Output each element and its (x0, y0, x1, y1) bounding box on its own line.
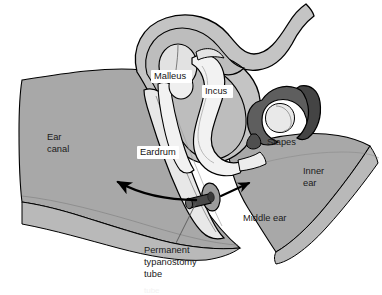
stapes-obturator-foramen (265, 103, 294, 132)
label-tube-line-3: tube (144, 269, 162, 279)
bottom-edge-ghost-text: tube (144, 286, 160, 295)
label-malleus: Malleus (151, 70, 192, 83)
label-middle-ear-text: Middle ear (243, 213, 286, 223)
label-eardrum-text: Eardrum (140, 147, 176, 157)
label-incus: Incus (202, 85, 233, 98)
label-tube-line-1: Permanent (144, 245, 190, 255)
label-ear-canal-line-1: Ear (47, 132, 61, 142)
label-incus-text: Incus (205, 86, 228, 96)
ear-anatomy-diagram: Malleus Incus Stapes Eardrum Middle ear … (0, 0, 382, 295)
label-eardrum: Eardrum (137, 146, 179, 159)
label-stapes-text: Stapes (267, 137, 296, 147)
label-ear-canal-line-2: canal (47, 144, 69, 154)
label-tube-line-2: typanostomy (144, 257, 197, 267)
label-malleus-text: Malleus (154, 71, 186, 81)
ear-cross-section-illustration: Malleus Incus Stapes Eardrum Middle ear … (0, 0, 382, 295)
label-inner-ear-line-2: ear (303, 178, 316, 188)
label-inner-ear-line-1: Inner (303, 166, 324, 176)
